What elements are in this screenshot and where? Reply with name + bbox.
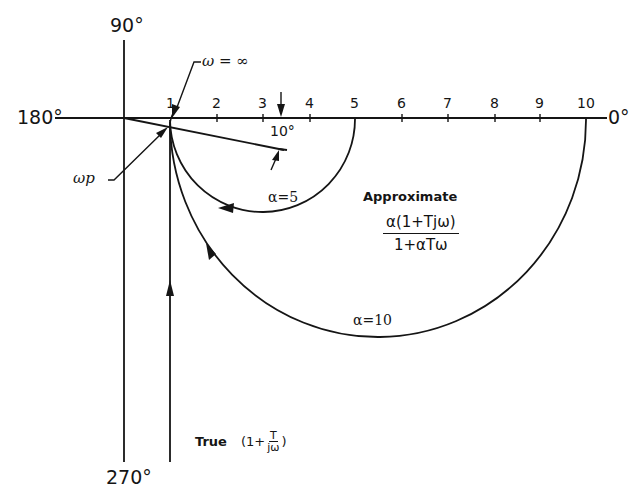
true-expr-fraction: T jω	[267, 430, 279, 453]
omega-infinity-label: ω = ∞	[202, 54, 249, 69]
tick-label-2: 2	[212, 96, 221, 110]
ten-degree-line-end	[279, 149, 287, 150]
tick-label-9: 9	[535, 96, 544, 110]
approximate-numerator: α(1+Tjω)	[383, 213, 459, 234]
alpha-10-label: α=10	[353, 313, 392, 327]
omega-infinity-leader	[176, 62, 201, 110]
true-label: True	[195, 435, 227, 448]
ten-degree-pointer-arrow-icon	[272, 150, 279, 161]
true-expr-denominator: jω	[267, 442, 279, 453]
ten-degree-label: 10°	[270, 124, 295, 138]
omega-p-label: ωp	[73, 171, 95, 186]
junction-curve	[170, 112, 174, 126]
label-90-degrees: 90°	[110, 16, 144, 35]
tick-label-7: 7	[443, 96, 452, 110]
alpha-10-arrow-icon	[206, 243, 216, 260]
alpha-5-label: α=5	[268, 190, 298, 204]
tick-label-8: 8	[490, 96, 499, 110]
tick-label-5: 5	[350, 96, 359, 110]
polar-plot-canvas	[0, 0, 641, 503]
omega-p-symbol: ωp	[73, 169, 95, 187]
ten-degree-line	[124, 118, 284, 150]
label-0-degrees: 0°	[608, 108, 630, 127]
tick-label-6: 6	[397, 96, 406, 110]
true-expr-prefix: (1+	[241, 435, 265, 448]
tick-label-4: 4	[305, 96, 314, 110]
alpha-10-curve	[170, 118, 586, 337]
tick-label-1: 1	[166, 96, 175, 110]
tick-label-3: 3	[258, 96, 267, 110]
ten-degree-marker-arrow-icon	[277, 104, 285, 117]
approximate-formula: α(1+Tjω) 1+αTω	[383, 213, 459, 254]
omega-p-leader	[108, 133, 162, 180]
true-legend: True (1+ T jω )	[195, 430, 287, 453]
label-180-degrees: 180°	[17, 108, 63, 127]
approximate-denominator: 1+αTω	[394, 234, 448, 254]
approximate-title: Approximate	[363, 190, 457, 203]
label-270-degrees: 270°	[106, 468, 152, 487]
true-expr-suffix: )	[281, 435, 286, 448]
tick-label-10: 10	[577, 96, 595, 110]
true-line-arrow-icon	[166, 280, 174, 296]
